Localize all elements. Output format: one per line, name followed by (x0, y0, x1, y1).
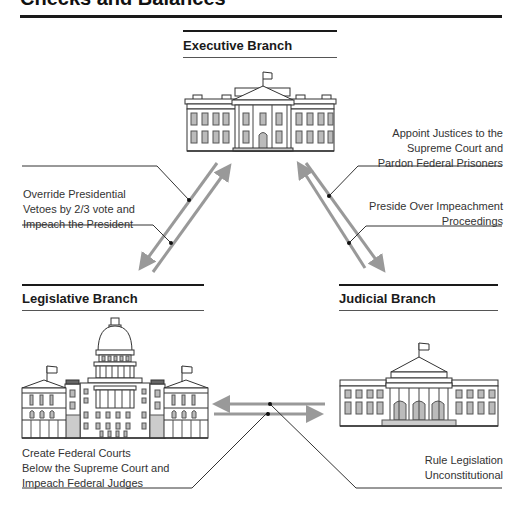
capitol-building-icon (22, 318, 208, 438)
arrow-to-executive-right (300, 166, 365, 268)
arrows (142, 163, 382, 414)
arrow-to-judicial (306, 163, 382, 268)
leader-lines (22, 166, 502, 488)
supreme-court-icon (340, 343, 498, 426)
arrow-to-executive (153, 168, 228, 272)
white-house-icon (185, 72, 336, 151)
leader-dots (169, 194, 351, 416)
arrow-to-legislative (142, 163, 217, 266)
diagram-overlay (0, 0, 524, 514)
